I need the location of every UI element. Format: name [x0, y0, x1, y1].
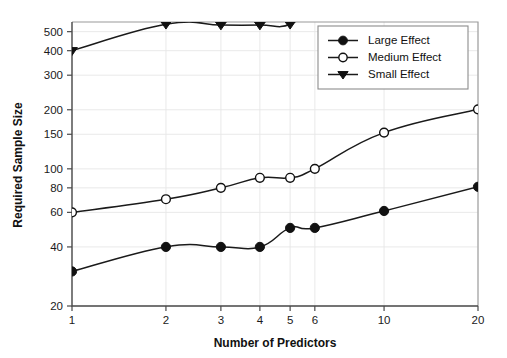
data-point-open-circle	[216, 183, 225, 192]
y-tick-label: 400	[44, 45, 63, 57]
x-tick-label: 2	[163, 314, 169, 326]
series-line	[72, 187, 478, 272]
data-point-filled-triangle	[67, 48, 78, 56]
series-line	[72, 3, 315, 51]
y-tick-label: 200	[44, 104, 63, 116]
x-tick-label: 4	[257, 314, 264, 326]
chart-container: 20406080100150200300400500 1234561020 La…	[0, 0, 507, 358]
y-tick-label: 500	[44, 26, 63, 38]
data-point-open-circle	[310, 164, 319, 173]
legend-label: Large Effect	[368, 34, 431, 46]
y-tick-label: 40	[50, 241, 63, 253]
data-point-open-circle	[339, 53, 347, 61]
series-large-effect	[67, 182, 482, 276]
data-point-filled-triangle	[215, 22, 226, 30]
x-tick-label: 5	[287, 314, 293, 326]
x-tick-label: 1	[69, 314, 75, 326]
data-point-open-circle	[474, 105, 483, 114]
data-point-filled-circle	[379, 206, 388, 215]
legend-label: Medium Effect	[368, 51, 442, 63]
data-point-filled-circle	[339, 36, 348, 45]
data-point-filled-circle	[310, 223, 319, 232]
series-medium-effect	[68, 105, 483, 217]
data-point-filled-circle	[161, 242, 170, 251]
y-axis-ticks: 20406080100150200300400500	[44, 26, 72, 312]
data-point-filled-circle	[286, 223, 295, 232]
data-point-filled-circle	[255, 242, 264, 251]
data-point-open-circle	[380, 128, 389, 137]
y-tick-label: 100	[44, 163, 63, 175]
data-point-open-circle	[255, 173, 264, 182]
data-point-open-circle	[162, 195, 171, 204]
data-point-filled-triangle	[254, 22, 265, 30]
series-line	[72, 109, 478, 212]
x-tick-label: 20	[472, 314, 485, 326]
x-tick-label: 6	[312, 314, 318, 326]
data-point-filled-circle	[473, 182, 482, 191]
data-point-open-circle	[286, 173, 295, 182]
series-small-effect	[67, 3, 315, 55]
x-axis-ticks: 1234561020	[69, 306, 485, 326]
y-tick-label: 300	[44, 69, 63, 81]
chart-legend: Large EffectMedium EffectSmall Effect	[318, 26, 468, 89]
y-tick-label: 60	[50, 206, 63, 218]
x-axis-title: Number of Predictors	[214, 336, 337, 350]
x-tick-label: 3	[218, 314, 224, 326]
y-axis-title: Required Sample Size	[11, 102, 25, 228]
y-tick-label: 80	[50, 182, 63, 194]
legend-label: Small Effect	[368, 68, 430, 80]
y-tick-label: 150	[44, 128, 63, 140]
legend-item-large-effect[interactable]: Large Effect	[328, 34, 431, 46]
y-tick-label: 20	[50, 300, 63, 312]
data-point-filled-circle	[67, 267, 76, 276]
sample-size-line-chart: 20406080100150200300400500 1234561020 La…	[0, 0, 507, 358]
x-tick-label: 10	[378, 314, 391, 326]
data-point-filled-circle	[216, 242, 225, 251]
